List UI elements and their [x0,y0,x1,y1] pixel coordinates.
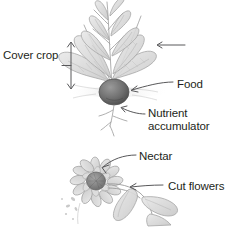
cut-flowers-leader-arrow [130,184,163,191]
nutrient-accumulator-leader-arrow [121,106,145,114]
label-cut-flowers: Cut flowers [168,180,224,193]
flower-disc [87,172,106,190]
sunflower-illustration [61,157,177,226]
figure-canvas: Cover crop Food Nutrient accumulator Nec… [0,0,234,227]
label-nectar: Nectar [139,150,172,163]
root-bulb [99,79,129,105]
label-food: Food [177,78,203,91]
label-cover-crop: Cover crop [3,49,58,62]
label-nutrient-accumulator: Nutrient accumulator [148,107,234,133]
leaf-arrow [157,42,185,48]
